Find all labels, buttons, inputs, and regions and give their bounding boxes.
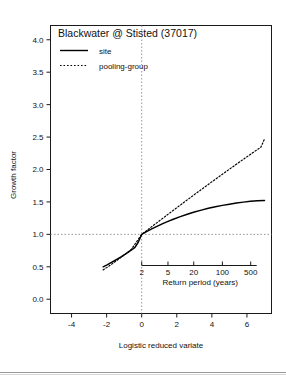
y-tick-label: 4.0 <box>32 36 44 45</box>
x-tick-label: 0 <box>139 320 144 329</box>
y-tick-label: 3.0 <box>32 101 44 110</box>
legend-label-site: site <box>99 47 112 56</box>
legend-label-pooling-group: pooling-group <box>99 62 148 71</box>
y-tick-label: 0.0 <box>32 295 44 304</box>
plot-frame <box>51 26 272 314</box>
return-period-tick-label: 5 <box>166 268 171 277</box>
y-tick-label: 3.5 <box>32 68 44 77</box>
y-tick-label: 2.5 <box>32 133 44 142</box>
return-period-tick-label: 20 <box>189 268 198 277</box>
y-tick-label: 1.0 <box>32 230 44 239</box>
x-tick-label: 2 <box>175 320 180 329</box>
growth-curve-chart: 0.00.51.01.52.02.53.03.54.0 -4-20246 252… <box>0 0 286 368</box>
y-tick-label: 1.5 <box>32 198 44 207</box>
x-axis-tick-labels: -4-20246 <box>68 320 250 329</box>
y-tick-label: 0.5 <box>32 263 44 272</box>
x-axis-label: Logistic reduced variate <box>119 341 204 350</box>
x-tick-label: -2 <box>103 320 111 329</box>
y-axis-ticks <box>47 40 51 299</box>
chart-figure-root: 0.00.51.01.52.02.53.03.54.0 -4-20246 252… <box>0 0 286 381</box>
y-tick-label: 2.0 <box>32 165 44 174</box>
return-period-tick-label: 100 <box>216 268 230 277</box>
footer-divider <box>0 372 286 373</box>
x-tick-label: 4 <box>210 320 215 329</box>
return-period-tick-label: 500 <box>244 268 258 277</box>
x-tick-label: 6 <box>245 320 250 329</box>
chart-title: Blackwater @ Stisted (37017) <box>58 27 197 39</box>
x-axis-ticks <box>72 314 247 318</box>
y-axis-tick-labels: 0.00.51.01.52.02.53.03.54.0 <box>32 36 44 304</box>
x-tick-label: -4 <box>68 320 76 329</box>
return-period-axis-label: Return period (years) <box>162 278 238 287</box>
footer-divider-secondary <box>0 374 286 375</box>
return-period-tick-label: 2 <box>139 268 144 277</box>
y-axis-label: Growth factor <box>9 151 18 199</box>
